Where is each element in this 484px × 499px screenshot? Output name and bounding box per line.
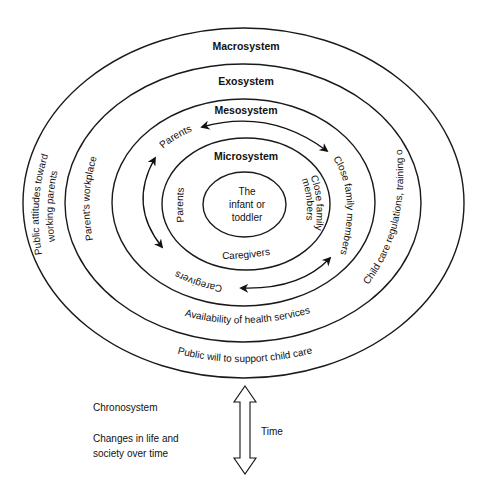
center-line-3: toddler	[232, 212, 263, 223]
time-label: Time	[261, 426, 283, 437]
micro-label-caregivers: Caregivers	[222, 246, 271, 261]
chronosystem-desc-line-1: Changes in life and	[93, 433, 179, 444]
macro-label-working-parents: working parents	[44, 169, 60, 243]
macro-label-public-will: Public will to support child care	[177, 344, 314, 364]
meso-label-caregivers: Caregivers	[173, 269, 223, 295]
center-line-1: The	[238, 186, 256, 197]
mesosystem-title: Mesosystem	[214, 104, 277, 116]
exosystem-title: Exosystem	[218, 75, 273, 87]
meso-label-parents: Parents	[157, 123, 193, 151]
micro-label-parents: Parents	[174, 187, 186, 223]
macrosystem-title: Macrosystem	[212, 40, 279, 52]
center-line-2: infant or	[229, 199, 266, 210]
meso-arrow-parents-family	[202, 121, 327, 151]
microsystem-title: Microsystem	[214, 150, 278, 162]
ecological-systems-diagram: Macrosystem Exosystem Mesosystem Microsy…	[0, 0, 484, 499]
chronosystem-desc-line-2: society over time	[93, 448, 168, 459]
meso-arrow-parents-caregivers	[143, 158, 162, 247]
exo-label-parents-workplace: Parent's workplace	[81, 154, 99, 242]
meso-label-close-family: Close family members	[331, 154, 356, 257]
exo-label-health-services: Availability of health services	[184, 304, 311, 325]
time-arrow-icon	[234, 386, 256, 474]
chronosystem-title: Chronosystem	[93, 402, 157, 413]
